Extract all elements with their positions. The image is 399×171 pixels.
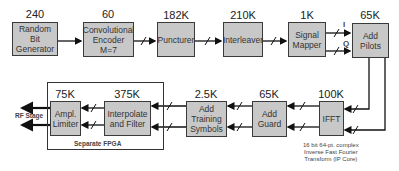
block-convolutional-encoder: Convolutional Encoder M=7 <box>83 22 134 57</box>
value-convolutional-encoder: 60 <box>78 8 138 20</box>
q-signal-label: Q <box>343 39 349 48</box>
value-add-training-symbols: 2.5K <box>176 88 236 100</box>
i-signal-label: I <box>343 20 345 29</box>
value-add-pilots: 65K <box>340 9 399 21</box>
value-ampl-limiter: 75K <box>35 88 95 100</box>
ifft-note: 16 bit 64-pt. complex Inverse Fast Fouri… <box>303 142 359 163</box>
value-random-bit-generator: 240 <box>5 8 65 20</box>
separate-fpga-label: Separate FPGA <box>74 140 121 147</box>
value-add-guard: 65K <box>239 88 299 100</box>
block-interleaver: Interleaver <box>223 22 263 57</box>
block-signal-mapper: Signal Mapper <box>288 22 326 57</box>
rf-stage-label: RF Stage <box>15 112 43 119</box>
block-puncturer: Puncturer <box>157 22 195 57</box>
block-interpolate-filter: Interpolate and Filter <box>104 101 151 136</box>
block-add-pilots: Add Pilots <box>352 23 389 58</box>
block-add-guard: Add Guard <box>252 101 287 137</box>
block-ifft: IFFT <box>319 101 344 136</box>
block-add-training-symbols: Add Training Symbols <box>186 101 227 137</box>
value-ifft: 100K <box>301 88 361 100</box>
value-interpolate-filter: 375K <box>97 88 157 100</box>
block-random-bit-generator: Random Bit Generator <box>12 22 58 56</box>
value-signal-mapper: 1K <box>277 9 337 21</box>
value-interleaver: 210K <box>213 9 273 21</box>
value-puncturer: 182K <box>146 9 206 21</box>
block-ampl-limiter: Ampl. Limiter <box>50 101 81 136</box>
